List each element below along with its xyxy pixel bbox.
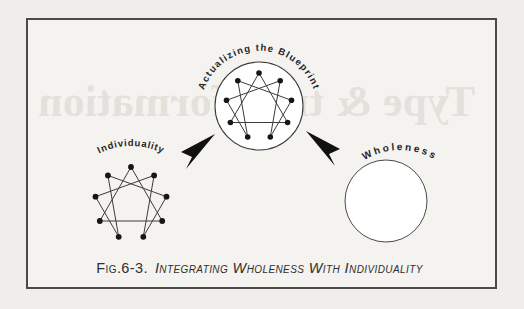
enneagram-node	[256, 70, 262, 76]
arrow-left-icon	[181, 134, 215, 169]
figure-title: Integrating Wholeness With Individuality	[155, 260, 423, 276]
enneagram-node	[97, 218, 103, 224]
scanned-book-figure-page: Type & transformation Actualizing the Bl…	[0, 0, 524, 309]
enneagram-node	[277, 78, 283, 84]
enneagram-node	[159, 218, 165, 224]
enneagram-node	[116, 234, 122, 240]
figure-caption: Fig.6-3.Integrating Wholeness With Indiv…	[26, 260, 493, 276]
enneagram-node	[105, 173, 111, 179]
arrow-right-icon	[306, 131, 340, 166]
label-wholeness: Wholeness	[360, 141, 439, 162]
enneagram-node	[128, 164, 134, 170]
enneagram-node	[285, 120, 291, 126]
enneagram-node	[289, 98, 295, 104]
enneagram-node	[224, 98, 230, 104]
enneagram-node	[245, 134, 251, 140]
figure-number: Fig.6-3.	[96, 260, 148, 276]
enneagram-line	[96, 175, 167, 236]
enneagram-node	[228, 120, 234, 126]
enneagram-node	[93, 194, 99, 200]
label-individuality: Individuality	[95, 137, 166, 155]
enneagram-node	[235, 78, 241, 84]
wholeness-circle	[345, 160, 427, 242]
enneagram-node	[151, 173, 157, 179]
enneagram-left-figure	[93, 164, 170, 240]
enneagram-node	[140, 234, 146, 240]
enneagram-node	[268, 134, 274, 140]
enneagram-node	[164, 194, 170, 200]
